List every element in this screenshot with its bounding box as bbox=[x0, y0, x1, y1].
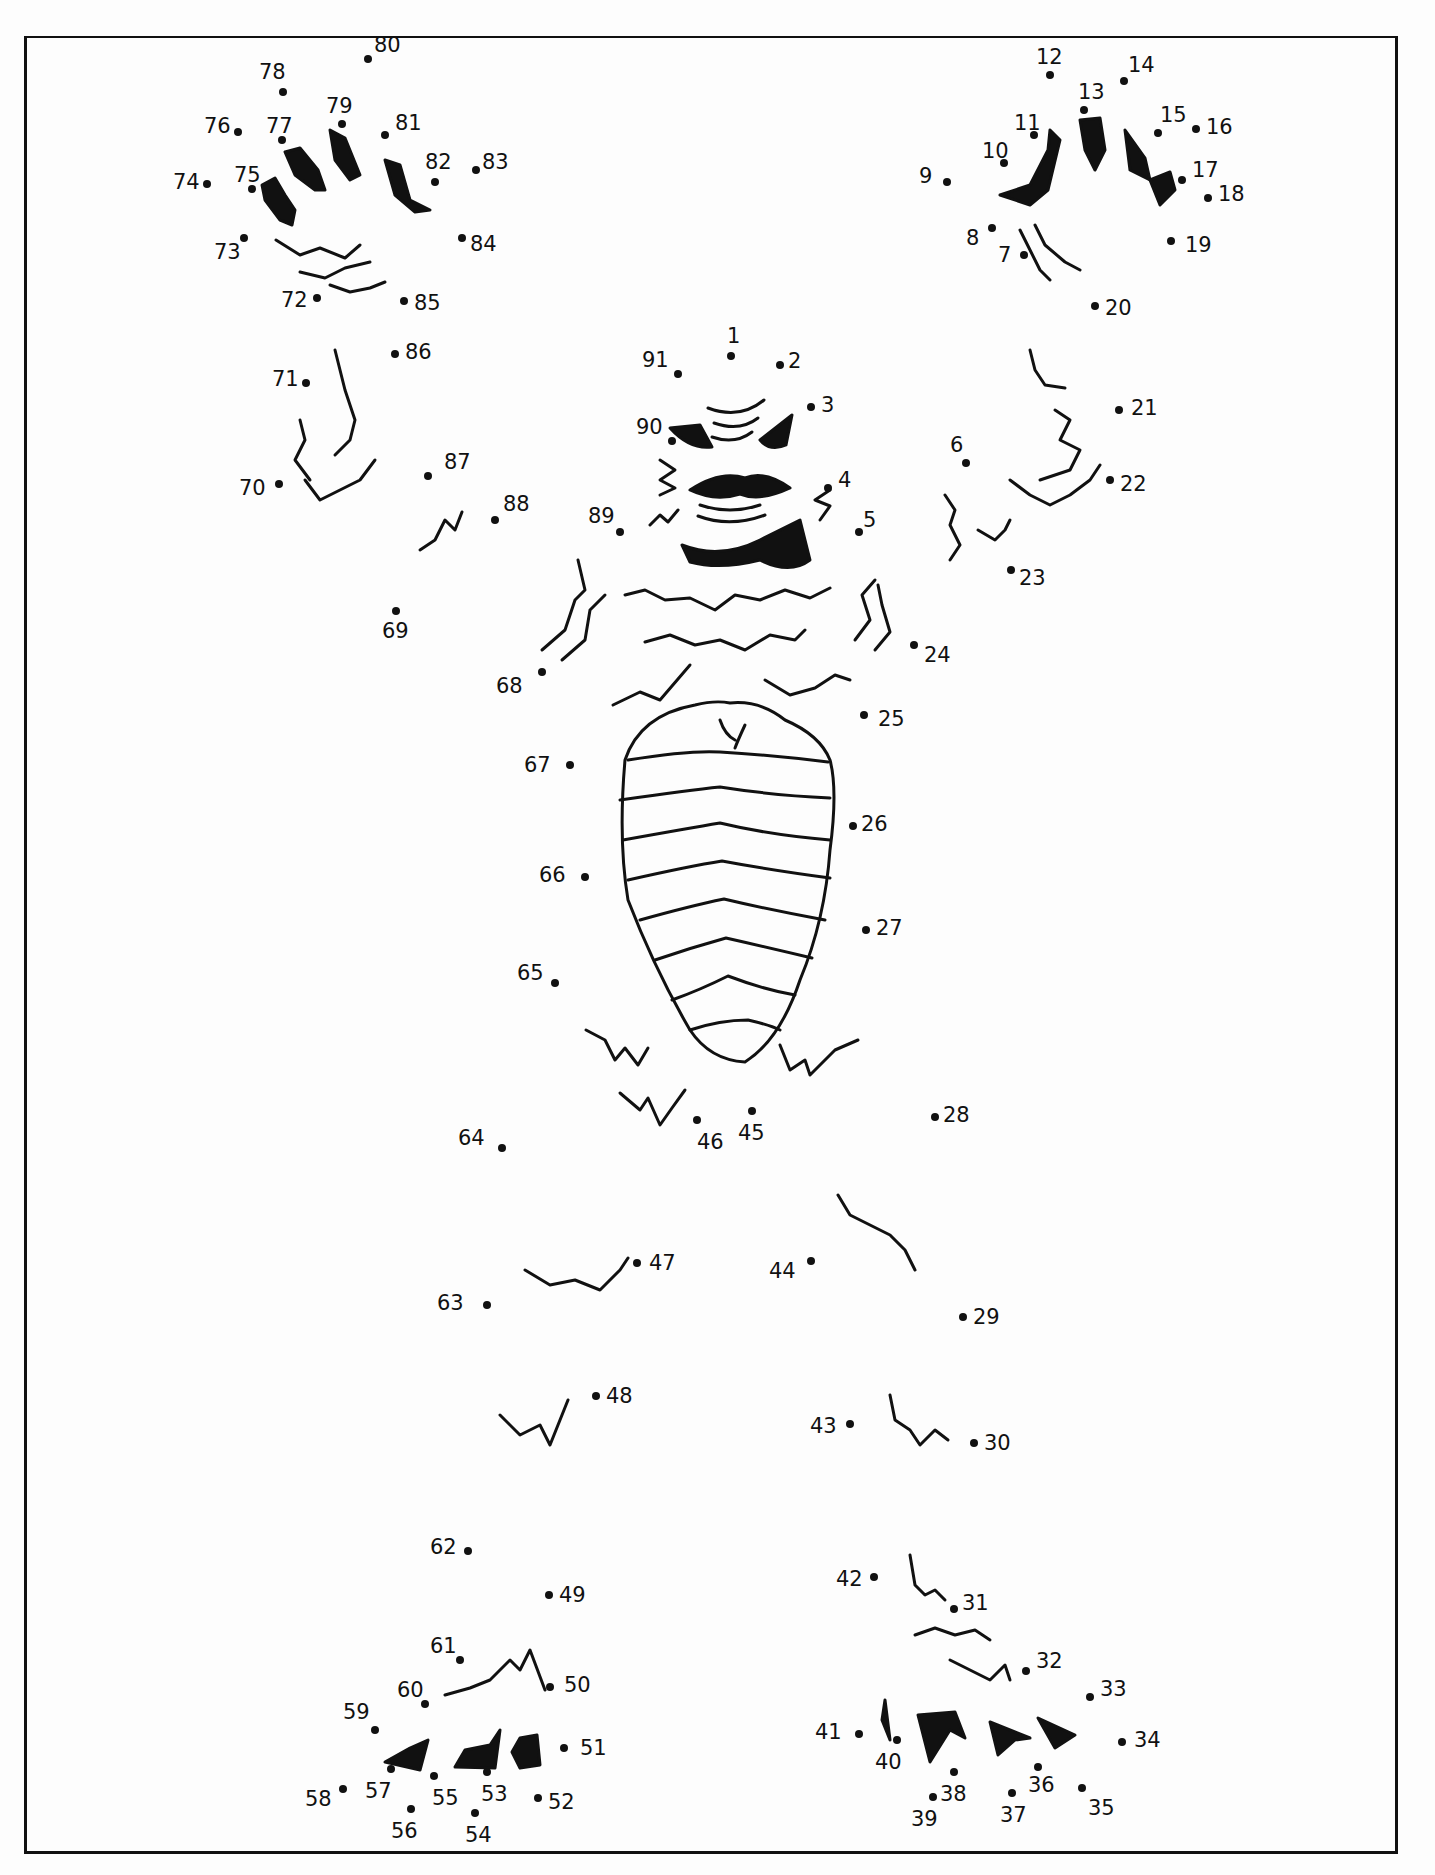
dot-79 bbox=[338, 120, 346, 128]
dot-84 bbox=[458, 234, 466, 242]
dot-label: 53 bbox=[481, 1784, 508, 1805]
dot-label: 14 bbox=[1128, 55, 1155, 76]
dot-label: 80 bbox=[374, 35, 401, 56]
dot-88 bbox=[491, 516, 499, 524]
dot-label: 71 bbox=[272, 369, 299, 390]
dot-label: 88 bbox=[503, 494, 530, 515]
dot-17 bbox=[1178, 176, 1186, 184]
dot-label: 9 bbox=[919, 166, 932, 187]
dot-69 bbox=[392, 607, 400, 615]
dot-label: 6 bbox=[950, 435, 963, 456]
dot-4 bbox=[824, 484, 832, 492]
dot-label: 72 bbox=[281, 290, 308, 311]
dot-label: 55 bbox=[432, 1788, 459, 1809]
dot-label: 51 bbox=[580, 1738, 607, 1759]
dot-28 bbox=[931, 1113, 939, 1121]
dot-label: 19 bbox=[1185, 235, 1212, 256]
dot-35 bbox=[1078, 1784, 1086, 1792]
dot-label: 46 bbox=[697, 1132, 724, 1153]
dot-label: 54 bbox=[465, 1825, 492, 1846]
dot-54 bbox=[471, 1809, 479, 1817]
dot-label: 89 bbox=[588, 506, 615, 527]
dot-label: 37 bbox=[1000, 1805, 1027, 1826]
dot-50 bbox=[546, 1683, 554, 1691]
dot-label: 74 bbox=[173, 172, 200, 193]
dot-label: 43 bbox=[810, 1416, 837, 1437]
leg-fur-icon bbox=[445, 1030, 1010, 1695]
dot-34 bbox=[1118, 1738, 1126, 1746]
dot-62 bbox=[464, 1547, 472, 1555]
dot-36 bbox=[1034, 1763, 1042, 1771]
dot-46 bbox=[693, 1116, 701, 1124]
dot-68 bbox=[538, 668, 546, 676]
dot-label: 86 bbox=[405, 342, 432, 363]
left-toes-icon bbox=[385, 1730, 540, 1770]
dot-label: 36 bbox=[1028, 1775, 1055, 1796]
dot-49 bbox=[545, 1591, 553, 1599]
dot-label: 47 bbox=[649, 1253, 676, 1274]
dot-label: 4 bbox=[838, 470, 851, 491]
dot-label: 26 bbox=[861, 814, 888, 835]
dot-label: 66 bbox=[539, 865, 566, 886]
worksheet-page: 1234567891011121314151617181920212223242… bbox=[0, 0, 1435, 1875]
dot-76 bbox=[234, 128, 242, 136]
dot-18 bbox=[1204, 194, 1212, 202]
dot-83 bbox=[472, 166, 480, 174]
dot-label: 45 bbox=[738, 1123, 765, 1144]
dot-90 bbox=[668, 437, 676, 445]
dot-label: 11 bbox=[1014, 113, 1041, 134]
dot-label: 38 bbox=[940, 1784, 967, 1805]
dot-81 bbox=[381, 131, 389, 139]
dot-25 bbox=[860, 711, 868, 719]
dot-label: 60 bbox=[397, 1680, 424, 1701]
dot-label: 17 bbox=[1192, 160, 1219, 181]
dot-30 bbox=[970, 1439, 978, 1447]
dot-label: 24 bbox=[924, 645, 951, 666]
dot-58 bbox=[339, 1785, 347, 1793]
dot-72 bbox=[313, 294, 321, 302]
dot-label: 1 bbox=[727, 326, 740, 347]
chest-fur-icon bbox=[542, 560, 890, 705]
dot-57 bbox=[387, 1765, 395, 1773]
dot-22 bbox=[1106, 476, 1114, 484]
dot-label: 16 bbox=[1206, 117, 1233, 138]
dot-label: 35 bbox=[1088, 1798, 1115, 1819]
dot-85 bbox=[400, 297, 408, 305]
dot-label: 31 bbox=[962, 1593, 989, 1614]
dot-label: 25 bbox=[878, 709, 905, 730]
dot-label: 52 bbox=[548, 1792, 575, 1813]
dot-80 bbox=[364, 55, 372, 63]
dot-48 bbox=[592, 1392, 600, 1400]
dot-label: 21 bbox=[1131, 398, 1158, 419]
dot-12 bbox=[1046, 71, 1054, 79]
dot-label: 79 bbox=[326, 96, 353, 117]
dot-label: 22 bbox=[1120, 474, 1147, 495]
dot-label: 18 bbox=[1218, 184, 1245, 205]
dot-2 bbox=[776, 361, 784, 369]
dot-label: 5 bbox=[863, 510, 876, 531]
dot-63 bbox=[483, 1301, 491, 1309]
dot-44 bbox=[807, 1257, 815, 1265]
dot-52 bbox=[534, 1794, 542, 1802]
dot-21 bbox=[1115, 406, 1123, 414]
dot-73 bbox=[240, 234, 248, 242]
dot-5 bbox=[855, 528, 863, 536]
dot-label: 58 bbox=[305, 1789, 332, 1810]
dot-label: 59 bbox=[343, 1702, 370, 1723]
dot-label: 75 bbox=[234, 165, 261, 186]
dot-86 bbox=[391, 350, 399, 358]
dot-47 bbox=[633, 1259, 641, 1267]
dot-45 bbox=[748, 1107, 756, 1115]
dot-label: 50 bbox=[564, 1675, 591, 1696]
dot-label: 13 bbox=[1078, 82, 1105, 103]
dot-label: 76 bbox=[204, 116, 231, 137]
dot-33 bbox=[1086, 1693, 1094, 1701]
dot-82 bbox=[431, 178, 439, 186]
dot-label: 57 bbox=[365, 1781, 392, 1802]
dot-26 bbox=[849, 822, 857, 830]
dot-29 bbox=[959, 1313, 967, 1321]
dot-label: 68 bbox=[496, 676, 523, 697]
dot-label: 27 bbox=[876, 918, 903, 939]
dot-59 bbox=[371, 1726, 379, 1734]
dot-label: 12 bbox=[1036, 47, 1063, 68]
